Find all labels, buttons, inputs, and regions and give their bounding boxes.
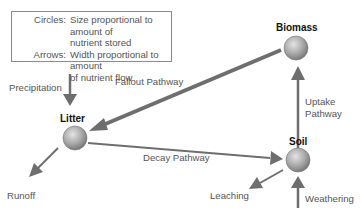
leaching-label: Leaching	[210, 190, 249, 201]
weathering-arrow	[291, 176, 305, 208]
legend-key: Arrows:	[12, 49, 70, 72]
legend-box: Circles: Size proportional to amount of …	[11, 11, 172, 62]
litter-label: Litter	[60, 113, 85, 124]
legend-value: Size proportional to amount of	[70, 14, 171, 37]
uptake-label-2: Pathway	[305, 108, 342, 119]
decay-label: Decay Pathway	[143, 152, 210, 163]
uptake-label-1: Uptake	[305, 96, 335, 107]
legend-row-arrows: Arrows: Width proportional to amount	[12, 49, 171, 72]
legend-key	[12, 37, 70, 49]
legend-key: Circles:	[12, 14, 70, 37]
legend-value: nutrient stored	[70, 37, 171, 49]
runoff-arrow	[29, 148, 58, 177]
leaching-arrow	[249, 170, 283, 189]
biomass-label: Biomass	[276, 22, 318, 33]
biomass-node	[284, 36, 308, 60]
legend-row-circles: Circles: Size proportional to amount of	[12, 14, 171, 37]
fallout-label: Fallout Pathway	[115, 76, 183, 87]
precipitation-label: Precipitation	[9, 82, 62, 93]
runoff-label: Runoff	[7, 190, 35, 201]
soil-node	[286, 148, 310, 172]
soil-label: Soil	[289, 136, 307, 147]
legend-row-circles-cont: nutrient stored	[12, 37, 171, 49]
weathering-label: Weathering	[305, 193, 354, 204]
legend-value: Width proportional to amount	[70, 49, 171, 72]
litter-node	[63, 126, 87, 150]
